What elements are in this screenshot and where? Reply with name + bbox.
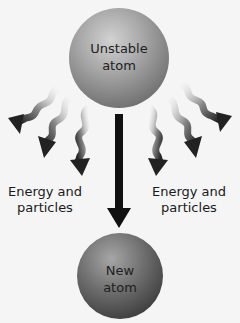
- unstable-atom-label: Unstable atom: [69, 40, 169, 74]
- new-atom-label-line2: atom: [80, 279, 160, 296]
- right-energy-label: Energy and particles: [144, 184, 234, 216]
- left-energy-label: Energy and particles: [0, 184, 90, 216]
- decay-arrow-icon: [107, 114, 131, 228]
- left-wavy-arrows: [8, 88, 90, 176]
- unstable-atom-label-line1: Unstable: [69, 40, 169, 57]
- right-energy-label-line1: Energy and: [144, 184, 234, 200]
- new-atom-label-line1: New: [80, 262, 160, 279]
- right-energy-label-line2: particles: [144, 200, 234, 216]
- radioactive-decay-diagram: Unstable atom Energy and particles Energ…: [0, 0, 240, 323]
- right-wavy-arrows: [148, 84, 232, 176]
- wavy-arrow-icon: [70, 108, 90, 176]
- new-atom-label: New atom: [80, 262, 160, 296]
- left-energy-label-line2: particles: [0, 200, 90, 216]
- wavy-arrow-icon: [148, 108, 168, 176]
- left-energy-label-line1: Energy and: [0, 184, 90, 200]
- unstable-atom-label-line2: atom: [69, 57, 169, 74]
- wavy-arrow-icon: [168, 98, 202, 158]
